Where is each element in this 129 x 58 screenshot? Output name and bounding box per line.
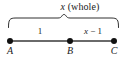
point-b-dot	[67, 38, 73, 44]
segment-ab-label: 1	[38, 27, 43, 36]
point-a-dot	[7, 38, 13, 44]
segment-bc-label: x − 1	[84, 27, 102, 36]
point-c-label: C	[111, 46, 118, 56]
brace-label: x (whole)	[61, 2, 100, 12]
point-a-label: A	[7, 46, 13, 56]
point-c-dot	[111, 38, 117, 44]
brace-label-text: (whole)	[65, 1, 99, 12]
segment-diagram: x (whole) 1 x − 1 A B C	[0, 0, 129, 58]
point-b-label: B	[67, 46, 73, 56]
segment-bc-rest: − 1	[88, 26, 102, 36]
